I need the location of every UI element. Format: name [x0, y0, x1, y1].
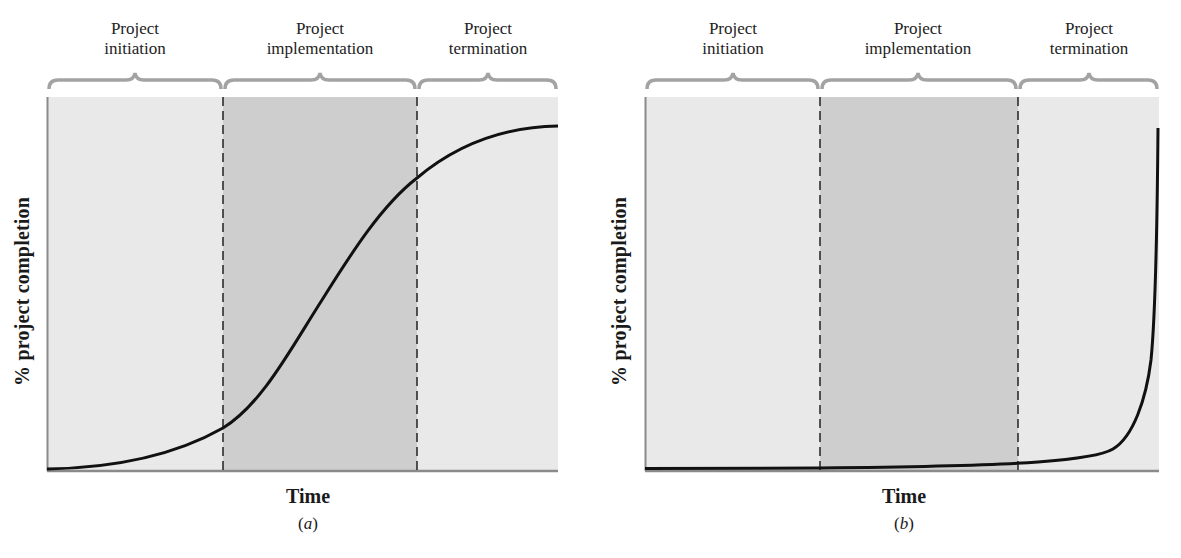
y-axis-label: % project completion — [608, 197, 631, 386]
phase-label-implementation: Project implementation — [865, 19, 972, 59]
phase-label-line: termination — [449, 39, 527, 59]
brace-termination — [419, 73, 556, 89]
phase-label-line: initiation — [702, 39, 763, 59]
phase-label-line: Project — [267, 19, 374, 39]
phase-label-line: initiation — [104, 39, 165, 59]
chart-panel-b: Project initiation Project implementatio… — [598, 0, 1181, 558]
caption-paren: ) — [312, 514, 318, 533]
brace-implementation — [822, 73, 1016, 89]
phase-label-line: Project — [104, 19, 165, 39]
region-termination — [417, 97, 558, 470]
phase-label-initiation: Project initiation — [702, 19, 763, 59]
panel-caption-b: (b) — [894, 514, 914, 534]
panel-caption-a: (a) — [298, 514, 318, 534]
brace-initiation — [49, 73, 221, 89]
region-implementation — [223, 97, 417, 470]
brace-initiation — [647, 73, 818, 89]
phase-label-termination: Project termination — [1050, 19, 1128, 59]
phase-label-line: Project — [1050, 19, 1128, 39]
brace-implementation — [225, 73, 415, 89]
region-implementation — [820, 97, 1018, 470]
phase-label-line: Project — [702, 19, 763, 39]
caption-letter: b — [900, 514, 909, 533]
phase-label-initiation: Project initiation — [104, 19, 165, 59]
x-axis-label: Time — [286, 485, 330, 508]
caption-paren: ) — [908, 514, 914, 533]
brace-termination — [1020, 73, 1157, 89]
phase-label-line: implementation — [865, 39, 972, 59]
y-axis-label: % project completion — [11, 197, 34, 386]
phase-label-implementation: Project implementation — [267, 19, 374, 59]
phase-label-line: Project — [449, 19, 527, 39]
phase-label-line: Project — [865, 19, 972, 39]
region-initiation — [47, 97, 223, 470]
caption-letter: a — [304, 514, 313, 533]
chart-panel-a: Project initiation Project implementatio… — [0, 0, 590, 558]
phase-label-termination: Project termination — [449, 19, 527, 59]
plot-area-a — [0, 0, 590, 558]
region-initiation — [645, 97, 820, 470]
x-axis-label: Time — [882, 485, 926, 508]
plot-area-b — [598, 0, 1181, 558]
phase-label-line: termination — [1050, 39, 1128, 59]
phase-label-line: implementation — [267, 39, 374, 59]
